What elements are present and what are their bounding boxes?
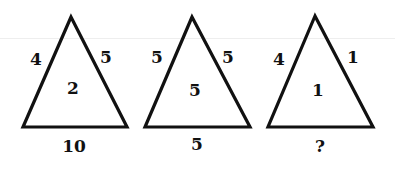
triangle-2-left-number: 5 [151,49,163,66]
triangle-1-bottom-number: 10 [62,138,86,155]
triangle-2-center-number: 5 [189,82,201,99]
triangle-1-center-number: 2 [67,80,79,97]
triangle-number-puzzle: 4 5 2 10 5 5 5 5 4 1 1 ? [0,0,395,170]
triangle-2-right-number: 5 [222,49,234,66]
triangle-3-center-number: 1 [312,82,324,99]
triangle-3-outline [268,16,373,127]
triangle-2-bottom-number: 5 [191,136,203,153]
triangle-1-right-number: 5 [100,49,112,66]
triangle-1-outline [23,17,127,127]
triangle-3-left-number: 4 [273,51,285,68]
triangle-3-missing-number: ? [315,138,325,155]
triangle-3-right-number: 1 [347,49,359,66]
triangle-1-left-number: 4 [30,51,42,68]
triangle-2-outline [145,17,250,127]
